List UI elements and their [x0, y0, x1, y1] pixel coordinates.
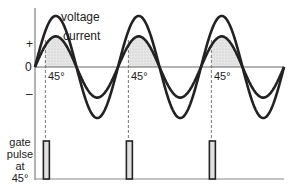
gate-label-line3: at	[15, 160, 24, 172]
plus-label: +	[26, 37, 33, 51]
thyristor-waveform-diagram: voltage current + 0 – 45° 45° 45° gate p…	[0, 0, 295, 192]
gate-pulse	[43, 141, 49, 179]
gate-pulse	[126, 141, 132, 179]
angle-label-2: 45°	[131, 70, 148, 82]
gate-label-line1: gate	[9, 136, 30, 148]
gate-pulse	[209, 141, 215, 179]
angle-label-1: 45°	[48, 70, 65, 82]
gate-pulses	[43, 141, 215, 179]
zero-label: 0	[25, 60, 32, 74]
voltage-label: voltage	[61, 10, 100, 24]
gate-label-line2: pulse	[7, 148, 33, 160]
gate-label-line4: 45°	[12, 172, 29, 184]
angle-label-3: 45°	[214, 70, 231, 82]
minus-label: –	[26, 87, 33, 101]
current-label: current	[63, 29, 101, 43]
